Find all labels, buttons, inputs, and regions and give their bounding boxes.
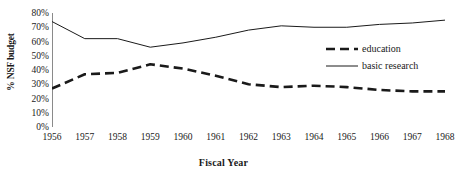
x-tick-label: 1968 xyxy=(425,131,459,143)
legend-swatch-education-icon xyxy=(325,44,359,54)
y-axis-tick-labels: 80%70%60%50%40%30%20%10%0% xyxy=(18,0,49,180)
x-axis-tick-labels: 1956195719581959196019611962196319641965… xyxy=(0,131,447,147)
chart-legend: educationbasic research xyxy=(325,40,447,74)
legend-item-education[interactable]: education xyxy=(325,40,447,57)
y-tick-label: 30% xyxy=(18,79,49,89)
legend-item-basic-research[interactable]: basic research xyxy=(325,57,447,74)
legend-swatch-basic-research-icon xyxy=(325,61,359,71)
y-tick-label: 60% xyxy=(18,37,49,47)
y-tick-label: 40% xyxy=(18,65,49,75)
y-tick-label: 50% xyxy=(18,51,49,61)
legend-label: education xyxy=(359,43,401,54)
y-tick-label: 10% xyxy=(18,108,49,118)
y-tick-label: 70% xyxy=(18,22,49,32)
y-tick-label: 20% xyxy=(18,94,49,104)
y-tick-label: 80% xyxy=(18,8,49,18)
y-axis-title: % NSF budget xyxy=(6,22,16,102)
x-axis-title: Fiscal Year xyxy=(0,157,447,168)
legend-label: basic research xyxy=(359,60,418,71)
